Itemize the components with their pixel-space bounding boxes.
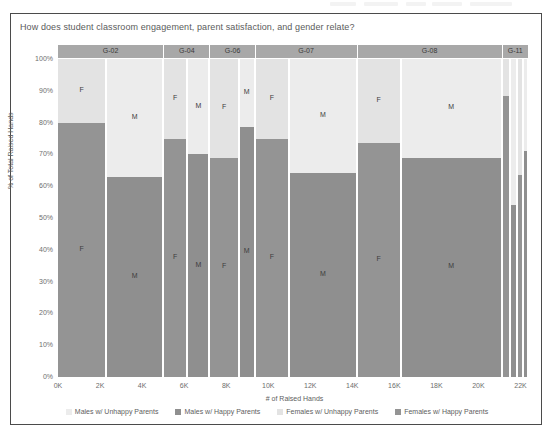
segment-happy[interactable]: M — [402, 158, 501, 377]
group-header-label: G-11 — [503, 47, 528, 54]
segment-unhappy[interactable] — [518, 59, 521, 175]
segment-happy[interactable] — [511, 205, 516, 377]
column-g-02-m-1[interactable]: MM — [107, 59, 164, 377]
segment-unhappy[interactable]: F — [58, 59, 105, 123]
chart-title: How does student classroom engagement, p… — [20, 22, 355, 32]
group-header-label: G-07 — [256, 47, 357, 54]
segment-unhappy[interactable]: F — [210, 59, 237, 158]
x-axis-tick-12K: 12K — [290, 382, 330, 389]
column-g-11-m-1[interactable] — [511, 59, 518, 377]
segment-label-gender: F — [358, 255, 400, 262]
marimekko-plot-area[interactable]: FFMMFFMMFFMMFFMMFFMM — [58, 59, 531, 377]
group-header-g-08[interactable]: G-08 — [358, 45, 503, 58]
segment-happy[interactable]: M — [240, 127, 254, 377]
legend-item-0[interactable]: Males w/ Unhappy Parents — [66, 408, 159, 415]
column-g-02-f-0[interactable]: FF — [58, 59, 107, 377]
legend-swatch-icon — [277, 409, 283, 415]
segment-label-gender: M — [402, 103, 501, 110]
segment-unhappy[interactable]: F — [358, 59, 400, 143]
segment-label-gender: F — [210, 103, 237, 110]
cutoff-toolbar-strip — [0, 0, 552, 10]
segment-label-gender: F — [164, 253, 186, 260]
segment-unhappy[interactable] — [524, 59, 527, 151]
legend-label: Females w/ Happy Parents — [404, 408, 488, 415]
segment-happy[interactable]: F — [256, 139, 289, 378]
group-header-g-11[interactable]: G-11 — [503, 45, 529, 58]
segment-happy[interactable]: F — [210, 158, 237, 377]
x-axis-tick-18K: 18K — [416, 382, 456, 389]
column-g-07-f-0[interactable]: FF — [256, 59, 291, 377]
segment-unhappy[interactable]: F — [164, 59, 186, 139]
column-g-11-m-3[interactable] — [524, 59, 529, 377]
segment-unhappy[interactable]: M — [290, 59, 355, 173]
legend-swatch-icon — [175, 409, 181, 415]
group-header-band: G-02G-04G-06G-07G-08G-11 — [58, 45, 531, 58]
x-axis-tick-6K: 6K — [164, 382, 204, 389]
y-axis-tick-80: 80% — [11, 119, 53, 126]
segment-label-gender: M — [290, 111, 355, 118]
segment-happy[interactable]: M — [107, 177, 162, 377]
column-g-04-f-0[interactable]: FF — [164, 59, 188, 377]
y-axis-tick-0: 0% — [11, 373, 53, 380]
y-axis-tick-100: 100% — [11, 55, 53, 62]
x-axis-tick-16K: 16K — [374, 382, 414, 389]
segment-label-gender: M — [107, 113, 162, 120]
column-g-11-f-0[interactable] — [503, 59, 511, 377]
segment-label-gender: F — [164, 94, 186, 101]
legend-item-1[interactable]: Males w/ Happy Parents — [175, 408, 260, 415]
segment-label-gender: F — [58, 86, 105, 93]
column-g-06-m-1[interactable]: MM — [240, 59, 256, 377]
segment-unhappy[interactable]: M — [402, 59, 501, 158]
legend-label: Males w/ Happy Parents — [184, 408, 260, 415]
group-header-label: G-08 — [358, 47, 502, 54]
column-g-07-m-1[interactable]: MM — [290, 59, 357, 377]
y-axis-tick-30: 30% — [11, 278, 53, 285]
group-header-label: G-04 — [164, 47, 209, 54]
x-axis-tick-0K: 0K — [38, 382, 78, 389]
legend-item-2[interactable]: Females w/ Unhappy Parents — [277, 408, 378, 415]
y-axis-tick-70: 70% — [11, 150, 53, 157]
segment-unhappy[interactable]: M — [107, 59, 162, 177]
segment-label-gender: F — [256, 94, 289, 101]
segment-unhappy[interactable] — [503, 59, 509, 96]
column-g-06-f-0[interactable]: FF — [210, 59, 239, 377]
segment-happy[interactable]: F — [358, 143, 400, 377]
legend-swatch-icon — [395, 409, 401, 415]
x-axis-tick-2K: 2K — [80, 382, 120, 389]
column-g-08-f-0[interactable]: FF — [358, 59, 402, 377]
group-header-g-07[interactable]: G-07 — [256, 45, 358, 58]
column-g-04-m-1[interactable]: MM — [188, 59, 210, 377]
segment-happy[interactable]: F — [58, 123, 105, 377]
segment-unhappy[interactable]: F — [256, 59, 289, 139]
segment-happy[interactable] — [524, 151, 527, 377]
segment-label-gender: F — [358, 96, 400, 103]
legend-item-3[interactable]: Females w/ Happy Parents — [395, 408, 488, 415]
segment-happy[interactable]: M — [290, 173, 355, 377]
y-axis-tick-50: 50% — [11, 214, 53, 221]
segment-label-gender: F — [256, 253, 289, 260]
segment-happy[interactable] — [518, 175, 521, 377]
segment-label-gender: M — [240, 88, 254, 95]
segment-label-gender: M — [402, 262, 501, 269]
legend-swatch-icon — [66, 409, 72, 415]
column-g-08-m-1[interactable]: MM — [402, 59, 503, 377]
segment-unhappy[interactable] — [511, 59, 516, 205]
legend-label: Males w/ Unhappy Parents — [75, 408, 159, 415]
segment-unhappy[interactable]: M — [188, 59, 208, 154]
segment-label-gender: M — [240, 247, 254, 254]
legend-label: Females w/ Unhappy Parents — [286, 408, 378, 415]
group-header-g-02[interactable]: G-02 — [58, 45, 164, 58]
group-header-label: G-02 — [58, 47, 163, 54]
segment-label-gender: M — [188, 102, 208, 109]
segment-label-gender: M — [107, 272, 162, 279]
segment-happy[interactable]: M — [188, 154, 208, 377]
segment-unhappy[interactable]: M — [240, 59, 254, 127]
segment-happy[interactable]: F — [164, 139, 186, 378]
y-axis-tick-20: 20% — [11, 309, 53, 316]
group-header-g-04[interactable]: G-04 — [164, 45, 210, 58]
segment-label-gender: M — [188, 261, 208, 268]
x-axis-title: # of Raised Hands — [58, 395, 531, 402]
segment-happy[interactable] — [503, 96, 509, 377]
x-axis-tick-8K: 8K — [206, 382, 246, 389]
group-header-g-06[interactable]: G-06 — [210, 45, 255, 58]
